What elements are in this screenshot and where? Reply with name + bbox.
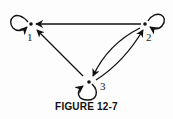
- figure-caption: FIGURE 12-7: [0, 101, 173, 112]
- node-1: [29, 22, 33, 26]
- node-label-2: 2: [146, 31, 152, 43]
- node-3: [87, 80, 91, 84]
- self-loop-3: [78, 84, 96, 100]
- edge-3-to-1: [37, 30, 83, 76]
- edge-2-to-3: [93, 28, 140, 76]
- node-2: [143, 22, 147, 26]
- edge-3-to-2: [96, 30, 143, 80]
- figure: 1 2 3 FIGURE 12-7: [0, 0, 173, 119]
- node-label-3: 3: [100, 80, 106, 92]
- node-label-1: 1: [27, 31, 33, 43]
- self-loop-1: [11, 16, 28, 31]
- self-loop-2: [148, 14, 164, 29]
